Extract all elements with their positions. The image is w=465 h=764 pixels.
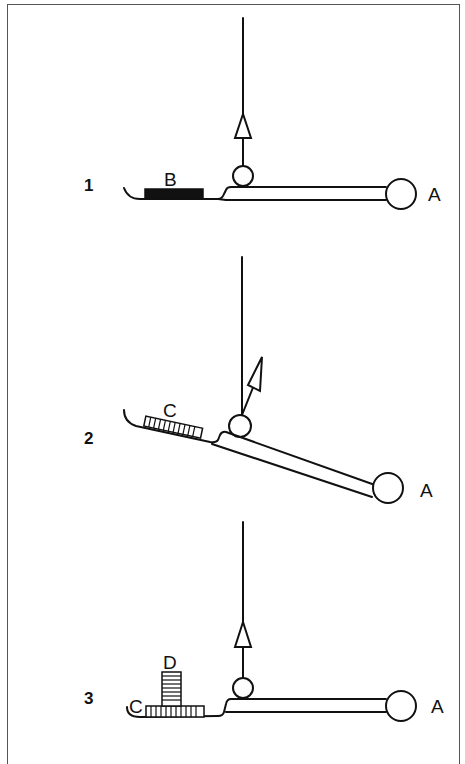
end-ball-a xyxy=(386,691,416,721)
panel-number-1: 1 xyxy=(84,176,93,195)
force-arrow-up-icon xyxy=(235,114,251,138)
contact-ball xyxy=(233,678,253,698)
force-arrow-up-icon xyxy=(235,622,251,647)
label-c: C xyxy=(129,696,143,717)
weight-block-b xyxy=(145,189,203,199)
panel-2: 2 C A xyxy=(84,257,433,503)
weight-block-d xyxy=(162,672,181,706)
label-a: A xyxy=(431,696,444,717)
label-b: B xyxy=(164,169,177,190)
label-d: D xyxy=(163,652,177,673)
panel-1: 1 B A xyxy=(84,18,441,209)
label-a: A xyxy=(428,184,441,205)
contact-ball xyxy=(233,166,253,186)
weight-block-c xyxy=(146,706,204,717)
panel-3: 3 D C A xyxy=(84,522,444,721)
panel-number-2: 2 xyxy=(84,429,93,448)
end-ball-a xyxy=(373,473,403,503)
label-c: C xyxy=(163,400,177,421)
label-a: A xyxy=(420,480,433,501)
panel-number-3: 3 xyxy=(84,689,93,708)
lever-arm-join xyxy=(218,199,226,200)
force-arrow-diagonal-icon xyxy=(248,357,262,391)
force-arrow-shaft xyxy=(242,385,254,415)
end-ball-a xyxy=(386,179,416,209)
